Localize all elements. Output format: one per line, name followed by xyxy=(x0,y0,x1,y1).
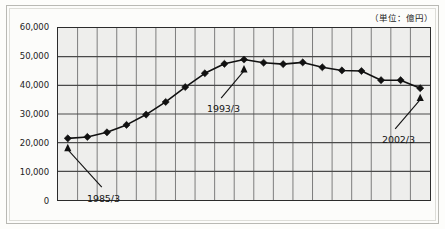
y-axis-tick-label: 0 xyxy=(44,196,49,206)
y-axis-tick-label: 30,000 xyxy=(20,109,49,119)
annotation-arrows xyxy=(58,28,430,200)
y-axis-tick-label: 50,000 xyxy=(20,51,49,61)
annotation-label: 1985/3 xyxy=(87,193,120,204)
y-axis-tick-label: 40,000 xyxy=(20,80,49,90)
chart-figure: （単位：億円） 010,00020,00030,00040,00050,0006… xyxy=(0,0,445,229)
annotation-label: 1993/3 xyxy=(207,103,240,114)
annotation-label: 2002/3 xyxy=(382,134,415,145)
plot-area xyxy=(57,27,431,201)
unit-caption: （単位：億円） xyxy=(370,11,433,23)
y-axis-tick-label: 10,000 xyxy=(20,167,49,177)
y-axis-labels: 010,00020,00030,00040,00050,00060,000 xyxy=(0,27,53,201)
y-axis-tick-label: 20,000 xyxy=(20,138,49,148)
y-axis-tick-label: 60,000 xyxy=(20,22,49,32)
